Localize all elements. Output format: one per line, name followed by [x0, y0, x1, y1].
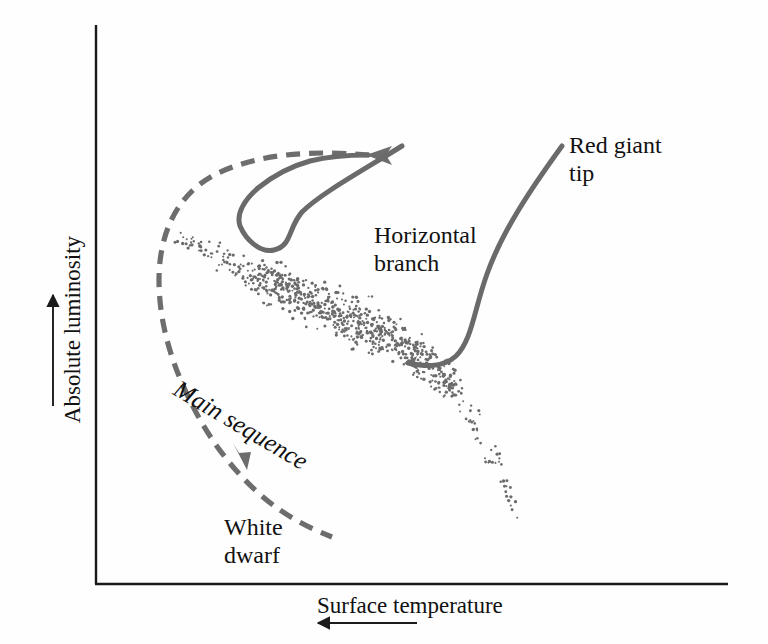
star-point: [346, 323, 348, 325]
star-point: [232, 253, 235, 256]
star-point: [448, 386, 451, 389]
star-point: [286, 299, 289, 302]
star-point: [368, 352, 371, 355]
star-point: [355, 327, 358, 330]
star-point: [330, 301, 333, 304]
star-point: [427, 358, 430, 361]
star-point: [473, 420, 475, 422]
star-point: [296, 279, 298, 281]
star-point: [349, 307, 351, 309]
star-point: [343, 304, 345, 306]
star-point: [379, 328, 382, 331]
star-point: [203, 253, 206, 256]
star-point: [241, 277, 244, 280]
star-point: [258, 264, 261, 267]
star-point: [266, 292, 268, 294]
star-point: [416, 353, 419, 356]
star-point: [429, 355, 432, 358]
star-point: [279, 273, 281, 275]
star-point: [370, 349, 373, 352]
star-point: [405, 353, 408, 356]
star-point: [293, 279, 296, 282]
star-point: [355, 305, 358, 308]
star-point: [356, 343, 358, 345]
star-point: [425, 358, 428, 361]
star-point: [341, 299, 343, 301]
star-point: [265, 266, 267, 268]
star-point: [434, 387, 437, 390]
star-point: [445, 391, 448, 394]
star-point: [356, 335, 359, 338]
star-point: [323, 303, 326, 306]
star-point: [285, 281, 287, 283]
star-point: [235, 272, 238, 275]
star-point: [507, 499, 510, 502]
star-point: [417, 359, 420, 362]
star-point: [298, 290, 300, 292]
star-point: [311, 295, 314, 298]
star-point: [371, 295, 373, 297]
star-point: [453, 380, 455, 382]
star-point: [435, 356, 438, 359]
star-point: [181, 242, 184, 245]
star-point: [265, 280, 268, 283]
star-point: [315, 314, 317, 316]
star-point: [284, 265, 286, 267]
star-point: [355, 296, 358, 299]
star-point: [335, 332, 338, 335]
star-point: [385, 346, 387, 348]
star-point: [174, 241, 177, 244]
star-point: [275, 261, 278, 264]
star-point: [433, 353, 436, 356]
star-point: [261, 259, 264, 262]
star-point: [323, 324, 326, 327]
star-point: [242, 254, 245, 257]
star-point: [490, 449, 492, 451]
star-point: [217, 245, 220, 248]
star-point: [399, 342, 402, 345]
star-point: [186, 246, 189, 249]
star-point: [314, 304, 316, 306]
star-point: [475, 438, 477, 440]
star-point: [494, 462, 496, 464]
annotation-horizontal-branch: Horizontal branch: [374, 221, 477, 278]
star-point: [397, 353, 400, 356]
star-point: [363, 324, 365, 326]
star-point: [291, 317, 294, 320]
star-point: [384, 332, 387, 335]
star-point: [395, 349, 397, 351]
star-point: [300, 311, 303, 314]
star-point: [405, 342, 407, 344]
star-point: [399, 357, 402, 360]
star-point: [274, 283, 277, 286]
star-point: [267, 278, 269, 280]
star-point: [503, 485, 506, 488]
star-point: [180, 232, 182, 234]
star-point: [452, 372, 455, 375]
star-point: [310, 303, 312, 305]
star-point: [258, 273, 260, 275]
annotation-red-giant-tip: Red giant tip: [569, 131, 662, 188]
star-point: [419, 356, 421, 358]
star-point: [338, 314, 341, 317]
star-point: [338, 326, 340, 328]
star-point: [342, 292, 344, 294]
star-point: [334, 326, 337, 329]
star-point: [370, 337, 373, 340]
star-point: [240, 263, 242, 265]
star-point: [273, 269, 276, 272]
star-point: [352, 347, 355, 350]
star-point: [207, 255, 209, 257]
star-point: [229, 269, 231, 271]
star-point: [460, 392, 462, 394]
track-arrowhead-descending: [233, 443, 251, 470]
star-point: [288, 310, 291, 313]
star-point: [380, 337, 382, 339]
star-point: [224, 253, 226, 255]
star-point: [303, 308, 305, 310]
star-point: [276, 273, 279, 276]
star-point: [430, 349, 433, 352]
star-point: [357, 310, 360, 313]
star-point: [339, 318, 342, 321]
star-point: [336, 291, 339, 294]
